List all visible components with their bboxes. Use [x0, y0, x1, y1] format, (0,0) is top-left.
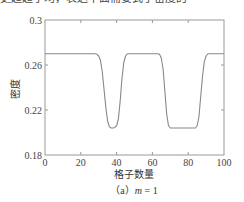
caption-suffix: = 1: [142, 185, 158, 196]
x-tick-label: 100: [217, 157, 232, 168]
plot-frame: [45, 20, 224, 155]
density-chart: 020406080100 0.180.220.260.3 密度 格子数量 （a）…: [0, 0, 244, 202]
figure-caption: （a）m = 1: [110, 185, 157, 196]
caption-prefix: （a）: [110, 185, 134, 196]
density-line: [45, 54, 224, 128]
x-tick-label: 0: [43, 157, 48, 168]
y-tick-label: 0.3: [30, 15, 43, 26]
x-tick-labels: 020406080100: [43, 157, 232, 168]
plot-border: [45, 20, 224, 155]
y-tick-label: 0.26: [25, 60, 43, 71]
x-tick-label: 40: [112, 157, 122, 168]
caption-variable: m: [135, 185, 142, 196]
x-tick-label: 20: [76, 157, 86, 168]
y-tick-labels: 0.180.220.260.3: [25, 15, 43, 161]
y-tick-label: 0.18: [25, 150, 43, 161]
y-tick-label: 0.22: [25, 105, 43, 116]
y-axis-label: 密度: [9, 79, 21, 99]
axis-ticks: [45, 20, 224, 155]
x-axis-label: 格子数量: [114, 168, 154, 180]
x-tick-label: 60: [147, 157, 157, 168]
x-tick-label: 80: [183, 157, 193, 168]
